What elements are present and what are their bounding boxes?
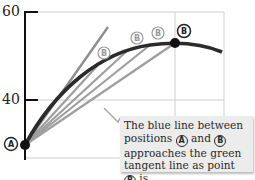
circled-a-icon: A xyxy=(176,135,188,147)
point-b-marker xyxy=(170,38,180,48)
secant-line xyxy=(25,50,128,145)
b-label-main: B xyxy=(181,27,187,36)
y-tick-label-60: 60 xyxy=(2,3,20,19)
a-label: A xyxy=(8,140,15,149)
b-label-3: B xyxy=(155,29,161,38)
callout-pointer xyxy=(104,108,120,122)
figure: B B B B A 60 40 The blue line between po… xyxy=(0,0,255,180)
secant-line xyxy=(25,65,98,145)
b-label-1: B xyxy=(101,49,107,58)
circled-b-icon: B xyxy=(214,135,226,147)
callout-box: The blue line between positions A and B … xyxy=(120,116,253,172)
callout-line-1: The blue line between xyxy=(124,119,249,132)
callout-line-4: tangent line as point B is xyxy=(124,159,249,180)
b-label-2: B xyxy=(134,34,140,43)
callout-line-3: approaches the green xyxy=(124,147,249,160)
callout-line-2: positions A and B xyxy=(124,132,249,147)
y-tick-label-40: 40 xyxy=(2,91,20,107)
circled-b-icon: B xyxy=(124,175,136,180)
point-a-marker xyxy=(20,140,30,150)
